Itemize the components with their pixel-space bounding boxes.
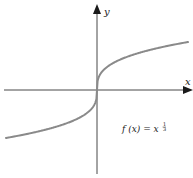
exponent-denominator: 3 (163, 126, 166, 132)
chart: y x f (x) = x 1 3 (0, 0, 193, 178)
x-axis-label: x (185, 76, 191, 87)
function-label: f (x) = x (121, 124, 159, 134)
function-label-base: f (x) = x (121, 124, 159, 134)
y-axis-label: y (103, 6, 110, 17)
y-axis-arrow-icon (93, 4, 101, 14)
x-axis-arrow-icon (183, 86, 193, 94)
